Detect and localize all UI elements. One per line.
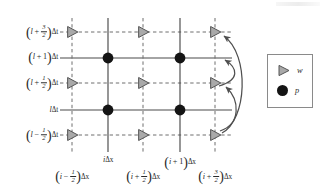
- y-axis-label-t-plus-1: (l + 1)Δt: [28, 51, 58, 65]
- figure-canvas: (l + 32)Δt(l + 1)Δt(l + 12)ΔtlΔt(l − 12)…: [0, 0, 325, 194]
- w-marker-0: [68, 26, 78, 37]
- dependency-arrows: [219, 36, 242, 133]
- w-marker-3: [68, 77, 78, 88]
- x-axis-label-x-plus-3-2: (i + 32)Δx: [198, 169, 232, 184]
- legend-box: w p: [267, 54, 313, 108]
- w-marker-4: [139, 77, 149, 88]
- w-marker-2: [211, 26, 221, 37]
- y-axis-label-t-plus-1-2: (l + 12)Δt: [26, 75, 58, 90]
- legend-label-w: w: [297, 66, 303, 75]
- triangle-icon: [277, 64, 290, 77]
- y-axis-label-t-plus-3-2: (l + 32)Δt: [26, 24, 58, 39]
- x-axis-label-x-minus-1-2: (i − 12)Δx: [55, 169, 89, 184]
- w-marker-1: [139, 26, 149, 37]
- x-axis-label-x-plus-1: (i + 1)Δx: [164, 156, 195, 170]
- p-marker-2: [103, 105, 114, 116]
- p-marker-0: [103, 53, 114, 64]
- arrow-to-middle-triangle: [220, 87, 236, 131]
- w-marker-6: [68, 129, 78, 140]
- dot-icon: [277, 85, 288, 96]
- legend-item-p: p: [277, 85, 299, 96]
- p-marker-1: [175, 53, 186, 64]
- y-axis-label-t-minus-1-2: (l − 12)Δt: [26, 127, 58, 142]
- w-marker-7: [139, 129, 149, 140]
- x-axis-label-x-plus-1-2: (i + 12)Δx: [126, 169, 160, 184]
- arrow-to-upper-mid-row: [219, 60, 235, 86]
- x-axis-label-x-i: iΔx: [103, 156, 113, 164]
- legend-label-p: p: [295, 86, 299, 95]
- y-axis-label-t-l: lΔt: [49, 106, 58, 114]
- legend-item-w: w: [277, 64, 303, 77]
- p-marker-3: [175, 105, 186, 116]
- w-marker-5: [211, 77, 221, 88]
- w-marker-8: [211, 129, 221, 140]
